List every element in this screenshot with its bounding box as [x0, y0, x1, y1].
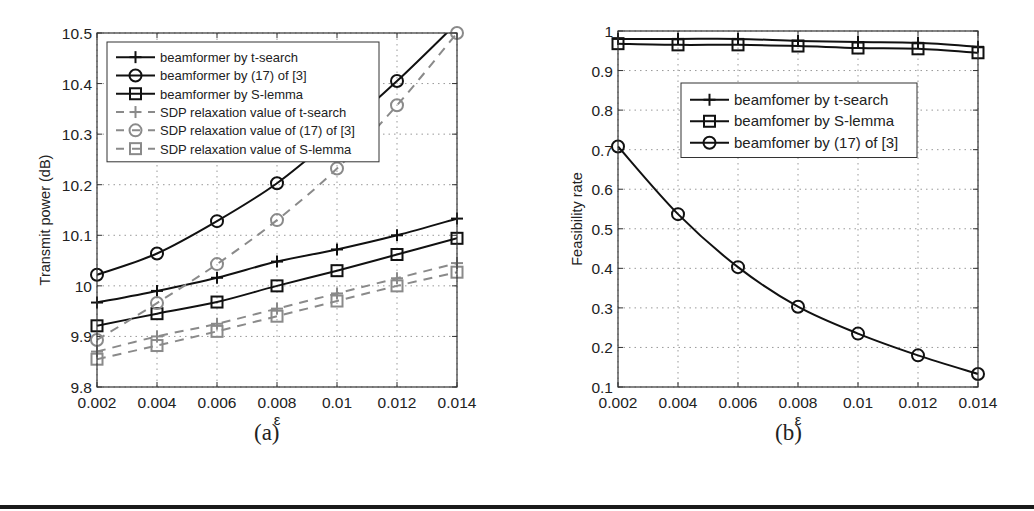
- y-tick-label: 0.3: [591, 300, 613, 317]
- series-0-marker-plus: [331, 243, 343, 255]
- series-0-marker-plus: [391, 229, 403, 241]
- horizontal-rule: [0, 505, 1034, 509]
- y-tick-label: 9.9: [70, 328, 92, 345]
- series-3-marker-plus: [211, 318, 223, 330]
- legend-label: beamfomer by t-search: [734, 91, 888, 108]
- x-tick-label: 0.004: [138, 394, 177, 411]
- y-tick-label: 0.9: [591, 63, 613, 80]
- figure: 0.0020.0040.0060.0080.010.0120.014ε9.89.…: [0, 0, 1034, 511]
- x-tick-label: 0.01: [322, 394, 352, 411]
- y-tick-label: 0.1: [591, 379, 613, 396]
- y-tick-label: 10: [75, 278, 93, 295]
- y-tick-label: 0.2: [591, 339, 613, 356]
- x-tick-label: 0.002: [599, 394, 638, 411]
- series-3-marker-plus: [391, 272, 403, 284]
- legend-label: beamfomer by S-lemma: [734, 112, 895, 129]
- x-tick-label: 0.002: [78, 394, 117, 411]
- chart-b-feasibility-rate: 0.0020.0040.0060.0080.010.0120.014ε0.10.…: [517, 0, 1034, 480]
- chart-a-transmit-power: 0.0020.0040.0060.0080.010.0120.014ε9.89.…: [0, 0, 517, 480]
- y-tick-label: 0.8: [591, 102, 613, 119]
- y-tick-label: 9.8: [70, 379, 92, 396]
- legend-label: SDP relaxation value of t-search: [160, 105, 346, 120]
- x-tick-label: 0.006: [719, 394, 758, 411]
- legend-label: beamformer by t-search: [160, 50, 298, 65]
- y-axis-label: Transmit power (dB): [37, 155, 53, 286]
- x-tick-label: 0.006: [198, 394, 237, 411]
- legend-label: SDP relaxation value of S-lemma: [160, 142, 352, 157]
- x-tick-label: 0.012: [378, 394, 417, 411]
- series-0-marker-plus: [151, 285, 163, 297]
- y-tick-label: 0.5: [591, 221, 613, 238]
- legend-label: beamfomer by (17) of [3]: [734, 134, 898, 151]
- y-axis: 0.10.20.30.40.50.60.70.80.91Feasibility …: [569, 23, 978, 396]
- legend-label: SDP relaxation value of (17) of [3]: [160, 123, 355, 138]
- y-tick-label: 0.6: [591, 181, 613, 198]
- caption-b: (b): [775, 420, 802, 446]
- legend-label: beamformer by S-lemma: [160, 87, 304, 102]
- x-tick-label: 0.004: [659, 394, 698, 411]
- y-axis-label: Feasibility rate: [569, 172, 585, 265]
- legend: beamformer by t-searchbeamformer by (17)…: [107, 42, 379, 162]
- legend-label: beamformer by (17) of [3]: [160, 68, 307, 83]
- legend: beamfomer by t-searchbeamfomer by S-lemm…: [681, 83, 917, 158]
- y-tick-label: 10.5: [62, 25, 92, 42]
- x-tick-label: 0.01: [843, 394, 873, 411]
- y-tick-label: 0.7: [591, 142, 613, 159]
- y-tick-label: 0.4: [591, 260, 613, 277]
- y-tick-label: 10.1: [62, 227, 92, 244]
- caption-a: (a): [254, 420, 280, 446]
- y-tick-label: 10.4: [62, 76, 93, 93]
- series-0-marker-plus: [211, 272, 223, 284]
- y-tick-label: 10.2: [62, 177, 92, 194]
- x-tick-label: 0.008: [779, 394, 818, 411]
- x-tick-label: 0.008: [258, 394, 297, 411]
- x-tick-label: 0.014: [438, 394, 477, 411]
- x-tick-label: 0.014: [959, 394, 998, 411]
- x-tick-label: 0.012: [899, 394, 938, 411]
- series-0-marker-plus: [271, 256, 283, 268]
- y-tick-label: 10.3: [62, 126, 92, 143]
- series-3-marker-plus: [331, 287, 343, 299]
- series-3-marker-plus: [271, 303, 283, 315]
